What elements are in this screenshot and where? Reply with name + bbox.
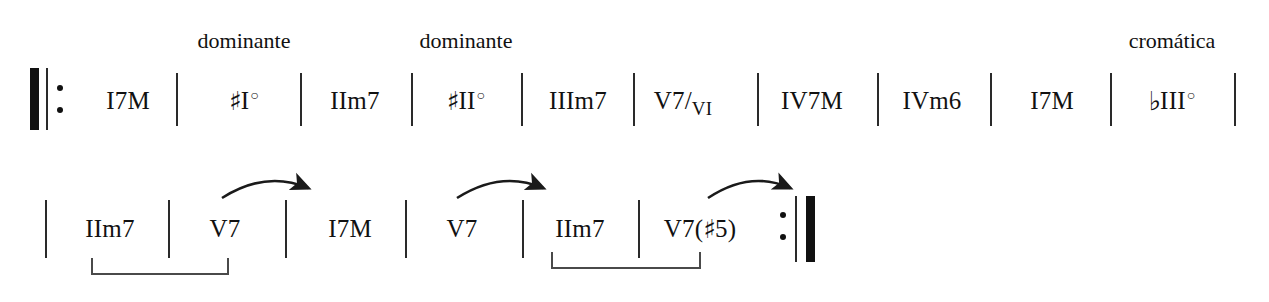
- repeat-end-thin-barline: [795, 196, 797, 262]
- annotation-dominante-2: dominante: [420, 30, 513, 52]
- chord-symbol: I7M: [106, 88, 150, 113]
- repeat-start-thin-barline: [46, 68, 48, 130]
- alteration-open-paren: (: [695, 215, 704, 242]
- repeat-end-dot-upper: [780, 212, 786, 218]
- chord-symbol: IIIm7: [549, 88, 607, 113]
- barline: [1234, 73, 1236, 126]
- barline: [522, 200, 524, 258]
- barline: [176, 73, 178, 126]
- roman-numeral: III: [1160, 87, 1186, 114]
- chord-symbol: IVm6: [902, 88, 961, 113]
- barline: [300, 73, 302, 126]
- barline: [285, 200, 287, 258]
- barline: [1110, 73, 1112, 126]
- arrows-and-brackets-overlay: [0, 0, 1269, 302]
- roman-numeral: I: [241, 87, 250, 114]
- barline: [168, 200, 170, 258]
- barline: [990, 73, 992, 126]
- chord-root: V7: [664, 215, 695, 242]
- chord-symbol: ♯II○: [447, 88, 486, 114]
- chord-symbol: IV7M: [781, 88, 843, 113]
- chord-symbol: IIm7: [555, 216, 604, 241]
- resolution-arrow-2: [457, 181, 543, 198]
- barline: [757, 73, 759, 126]
- chord-symbol: V7: [210, 216, 241, 241]
- chord-symbol: V7(♯5): [664, 216, 737, 242]
- chord-symbol: V7/VI: [654, 88, 713, 118]
- chord-symbol: I7M: [1030, 88, 1074, 113]
- resolution-arrow-3: [708, 181, 790, 198]
- repeat-start-dot-lower: [57, 107, 63, 113]
- annotation-cromatica: cromática: [1129, 30, 1216, 52]
- secondary-dominant-numerator: V7/: [654, 87, 692, 114]
- alteration-close-paren: ): [728, 215, 737, 242]
- chord-chart: dominante dominante cromática I7M ♯I○ II…: [0, 0, 1269, 302]
- barline: [411, 73, 413, 126]
- annotation-dominante-1: dominante: [198, 30, 291, 52]
- barline: [638, 200, 640, 258]
- diminished-icon: ○: [250, 88, 259, 103]
- secondary-dominant-target: VI: [692, 98, 712, 119]
- grouping-bracket-2: [552, 252, 700, 268]
- barline: [521, 73, 523, 126]
- barline: [633, 73, 635, 126]
- repeat-end-dot-lower: [780, 234, 786, 240]
- repeat-end-thick-barline: [806, 196, 815, 262]
- alteration-degree: 5: [715, 215, 728, 242]
- barline: [405, 200, 407, 258]
- barline: [45, 200, 47, 258]
- chord-symbol: ♯I○: [229, 88, 259, 114]
- resolution-arrow-1: [222, 181, 308, 198]
- chord-symbol: V7: [447, 216, 478, 241]
- repeat-start-dot-upper: [57, 85, 63, 91]
- barline: [877, 73, 879, 126]
- diminished-icon: ○: [1187, 88, 1196, 103]
- roman-numeral: II: [459, 87, 476, 114]
- chord-symbol: ♭III○: [1149, 88, 1196, 114]
- diminished-icon: ○: [477, 88, 486, 103]
- chord-symbol: IIm7: [85, 216, 134, 241]
- grouping-bracket-1: [92, 258, 228, 274]
- chord-symbol: IIm7: [330, 88, 379, 113]
- repeat-start-thick-barline: [30, 68, 39, 130]
- chord-symbol: I7M: [328, 216, 372, 241]
